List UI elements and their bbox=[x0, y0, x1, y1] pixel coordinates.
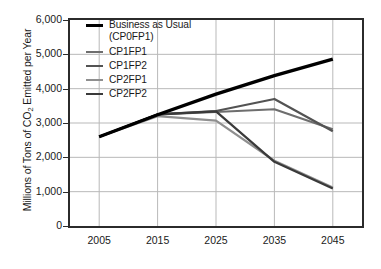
legend-swatch-cp2fp2 bbox=[86, 93, 103, 95]
legend-swatch-cp1fp1 bbox=[86, 51, 103, 53]
chart-legend: Business as Usual (CP0FP1)CP1FP1CP1FP2CP… bbox=[86, 19, 191, 102]
legend-item-cp2fp1[interactable]: CP2FP1 bbox=[86, 74, 191, 87]
legend-item-cp0fp1[interactable]: Business as Usual (CP0FP1) bbox=[86, 19, 191, 45]
x-tick-label: 2015 bbox=[135, 234, 181, 246]
legend-label-cp1fp2: CP1FP2 bbox=[109, 60, 147, 72]
y-axis-title-pre: Millions of Tons of CO bbox=[21, 112, 33, 212]
x-tick-label: 2005 bbox=[76, 234, 122, 246]
legend-label-cp1fp1: CP1FP1 bbox=[109, 46, 147, 58]
y-axis-title: Millions of Tons of CO2 Emitted per Year bbox=[21, 5, 33, 235]
legend-label-cp2fp2: CP2FP2 bbox=[109, 88, 147, 100]
legend-swatch-cp2fp1 bbox=[86, 79, 103, 81]
x-tick-label: 2025 bbox=[193, 234, 239, 246]
y-axis-title-post: Emitted per Year bbox=[21, 29, 33, 108]
co2-emissions-line-chart: Millions of Tons of CO2 Emitted per Year… bbox=[0, 0, 381, 269]
legend-swatch-cp0fp1 bbox=[86, 24, 103, 27]
legend-label-cp2fp1: CP2FP1 bbox=[109, 74, 147, 86]
legend-swatch-cp1fp2 bbox=[86, 65, 103, 67]
legend-item-cp2fp2[interactable]: CP2FP2 bbox=[86, 88, 191, 101]
legend-item-cp1fp1[interactable]: CP1FP1 bbox=[86, 46, 191, 59]
y-axis-title-subscript: 2 bbox=[26, 108, 35, 112]
legend-label-cp0fp1: Business as Usual (CP0FP1) bbox=[109, 19, 191, 43]
legend-item-cp1fp2[interactable]: CP1FP2 bbox=[86, 60, 191, 73]
x-tick-label: 2045 bbox=[310, 234, 356, 246]
x-tick-label: 2035 bbox=[251, 234, 297, 246]
